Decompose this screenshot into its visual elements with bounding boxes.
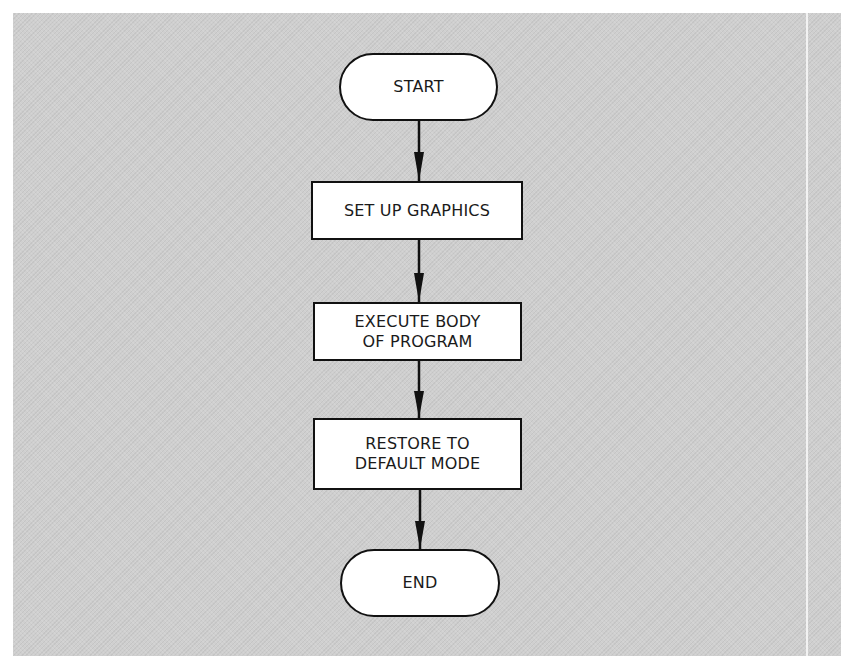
start-label: START: [393, 77, 443, 97]
restore-default-process: RESTORE TO DEFAULT MODE: [313, 418, 522, 490]
arrowhead-icon: [414, 152, 424, 181]
arrowhead-icon: [414, 391, 424, 418]
arrowhead-icon: [415, 521, 425, 549]
end-label: END: [403, 573, 438, 593]
restore-default-label: RESTORE TO DEFAULT MODE: [355, 434, 481, 474]
end-terminator: END: [340, 549, 500, 617]
execute-body-process: EXECUTE BODY OF PROGRAM: [313, 302, 522, 361]
setup-graphics-process: SET UP GRAPHICS: [311, 181, 523, 240]
setup-graphics-label: SET UP GRAPHICS: [344, 201, 490, 221]
start-terminator: START: [339, 53, 498, 121]
execute-body-label: EXECUTE BODY OF PROGRAM: [355, 312, 481, 352]
arrowhead-icon: [414, 273, 424, 302]
